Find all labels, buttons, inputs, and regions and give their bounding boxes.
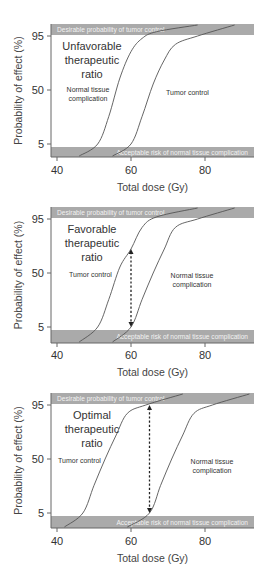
right-curve-label: Normal tissue xyxy=(171,272,214,279)
y-axis-title: Probability of effect (%) xyxy=(12,406,24,514)
dose-difference-arrow xyxy=(129,249,134,327)
right-curve-label: Normal tissue xyxy=(191,458,234,465)
left-curve-label: Tumor control xyxy=(69,271,112,278)
y-axis-title: Probability of effect (%) xyxy=(12,221,24,329)
x-tick-label: 40 xyxy=(51,535,63,547)
left-curve-label: complication xyxy=(69,95,108,103)
chart-panel-1: Desirable probability of tumor controlAc… xyxy=(12,24,254,193)
x-tick-label: 80 xyxy=(199,349,211,361)
desirable-tumor-control-band: Desirable probability of tumor control xyxy=(51,393,254,404)
y-tick-label: 50 xyxy=(32,267,44,279)
chart-panel-2: Desirable probability of tumor controlAc… xyxy=(12,207,254,378)
ratio-title: ratio xyxy=(81,68,102,80)
x-tick-label: 80 xyxy=(199,164,211,176)
ratio-title: Unfavorable xyxy=(62,40,121,52)
x-tick-label: 60 xyxy=(125,535,137,547)
right-curve-label: complication xyxy=(193,467,232,475)
desirable-tumor-control-band: Desirable probability of tumor control xyxy=(51,24,254,35)
ratio-title: therapeutic xyxy=(65,423,120,435)
acceptable-risk-band: Acceptable risk of normal tissue complic… xyxy=(51,516,254,528)
therapeutic-ratio-figure: Desirable probability of tumor controlAc… xyxy=(0,0,268,584)
left-curve-label: Tumor control xyxy=(58,457,101,464)
left-curve-label: Normal tissue xyxy=(67,86,110,93)
x-tick-label: 60 xyxy=(125,164,137,176)
y-axis-title: Probability of effect (%) xyxy=(12,36,24,144)
right-curve-label: complication xyxy=(173,281,212,289)
x-axis-title: Total dose (Gy) xyxy=(117,366,188,378)
svg-text:Desirable probability of tumor: Desirable probability of tumor control xyxy=(57,209,165,217)
svg-text:Desirable probability of tumor: Desirable probability of tumor control xyxy=(57,26,165,34)
x-tick-label: 40 xyxy=(51,164,63,176)
ratio-title: ratio xyxy=(81,251,102,263)
ratio-title: therapeutic xyxy=(65,54,120,66)
svg-text:Desirable probability of tumor: Desirable probability of tumor control xyxy=(57,395,165,403)
y-tick-label: 95 xyxy=(32,399,44,411)
y-tick-label: 50 xyxy=(32,453,44,465)
dose-difference-arrow xyxy=(147,405,152,513)
svg-text:Acceptable risk of normal tiss: Acceptable risk of normal tissue complic… xyxy=(116,333,248,341)
chart-panel-3: Desirable probability of tumor controlAc… xyxy=(12,393,254,564)
x-tick-label: 60 xyxy=(125,349,137,361)
ratio-title: therapeutic xyxy=(65,237,120,249)
acceptable-risk-band: Acceptable risk of normal tissue complic… xyxy=(51,147,254,157)
x-axis-title: Total dose (Gy) xyxy=(117,181,188,193)
svg-text:Acceptable risk of normal tiss: Acceptable risk of normal tissue complic… xyxy=(116,149,248,157)
y-tick-label: 5 xyxy=(38,507,44,519)
x-tick-label: 40 xyxy=(51,349,63,361)
desirable-tumor-control-band: Desirable probability of tumor control xyxy=(51,207,254,218)
y-tick-label: 95 xyxy=(32,30,44,42)
x-tick-label: 80 xyxy=(199,535,211,547)
right-curve-label: Tumor control xyxy=(166,89,209,96)
y-tick-label: 95 xyxy=(32,213,44,225)
ratio-title: Optimal xyxy=(73,409,111,421)
ratio-title: ratio xyxy=(81,437,102,449)
y-tick-label: 5 xyxy=(38,321,44,333)
ratio-title: Favorable xyxy=(68,223,117,235)
y-tick-label: 5 xyxy=(38,138,44,150)
x-axis-title: Total dose (Gy) xyxy=(117,552,188,564)
y-tick-label: 50 xyxy=(32,84,44,96)
acceptable-risk-band: Acceptable risk of normal tissue complic… xyxy=(51,330,254,343)
